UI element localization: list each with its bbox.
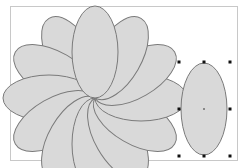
resize-handle[interactable] (203, 61, 206, 64)
drawing-canvas[interactable] (0, 0, 241, 168)
resize-handle[interactable] (203, 155, 206, 158)
resize-handle[interactable] (229, 61, 232, 64)
resize-handle[interactable] (178, 61, 181, 64)
resize-handle[interactable] (178, 108, 181, 111)
petal-ellipse[interactable] (72, 6, 118, 98)
resize-handle[interactable] (229, 155, 232, 158)
resize-handle[interactable] (229, 108, 232, 111)
center-marker (203, 108, 205, 110)
resize-handle[interactable] (178, 155, 181, 158)
